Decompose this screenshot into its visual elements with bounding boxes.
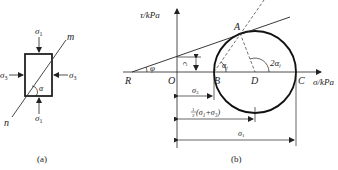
two-alpha-f-arc	[250, 58, 269, 72]
sigma1-top-label: σ1	[35, 26, 42, 37]
point-b: B	[214, 75, 220, 86]
caption-b: (b)	[231, 154, 242, 164]
sigma1-dim-label: σ1	[238, 129, 245, 138]
alpha-label: α	[39, 84, 44, 93]
point-c: C	[298, 75, 305, 86]
mohr-coulomb-diagram: σ1 σ1 σ3 σ3 m n α (a)	[0, 0, 338, 170]
svg-text:1: 1	[192, 107, 195, 112]
sigma3-dim-label: σ3	[192, 86, 199, 95]
two-alpha-f-label: 2αf	[270, 58, 281, 68]
phi-label: φ	[150, 63, 155, 73]
point-a: A	[233, 21, 241, 32]
sigma3-left-label: σ3	[0, 70, 7, 81]
sigma-axis-label: σ/kPa	[313, 77, 334, 87]
point-r: R	[124, 75, 131, 86]
sigma3-right-label: σ3	[69, 70, 76, 81]
phi-arc	[146, 67, 147, 72]
point-d: D	[250, 75, 259, 86]
point-o: O	[168, 75, 175, 86]
plane-label-m: m	[67, 31, 74, 42]
sigma1-bottom-label: σ1	[35, 113, 42, 124]
svg-text:(σ₁+σ₃): (σ₁+σ₃)	[196, 108, 221, 117]
plane-label-n: n	[4, 117, 9, 128]
svg-text:2: 2	[192, 113, 195, 118]
radius-line	[240, 33, 255, 72]
caption-a: (a)	[37, 154, 47, 164]
soil-element-panel: σ1 σ1 σ3 σ3 m n α (a)	[0, 26, 76, 164]
half-sum-label: 1 2 (σ₁+σ₃)	[191, 107, 221, 118]
mohr-circle-panel: τ/kPa σ/kPa R O B D C A φ c αf 2αf σ3 1 …	[123, 0, 334, 164]
tau-axis-label: τ/kPa	[140, 10, 160, 20]
alpha-f-label: αf	[222, 61, 228, 70]
cohesion-label: c	[181, 62, 191, 66]
